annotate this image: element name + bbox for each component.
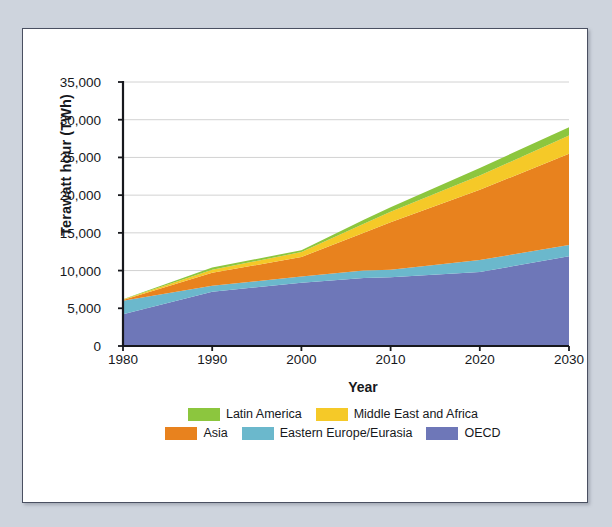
legend-label: Latin America [226, 407, 302, 421]
x-tick-label: 2000 [271, 352, 331, 367]
legend-row: AsiaEastern Europe/EurasiaOECD [133, 426, 533, 440]
x-tick-label: 2020 [450, 352, 510, 367]
y-axis-title: Terawatt hour (TWh) [58, 50, 74, 280]
y-tick-label: 5,000 [31, 301, 101, 316]
legend-label: Middle East and Africa [354, 407, 478, 421]
legend-swatch [316, 408, 348, 421]
legend-row: Latin AmericaMiddle East and Africa [133, 407, 533, 421]
legend-swatch [188, 408, 220, 421]
legend-item-middle-east-and-africa: Middle East and Africa [316, 407, 478, 421]
legend-swatch [165, 427, 197, 440]
legend-label: Eastern Europe/Eurasia [280, 426, 413, 440]
legend-item-latin-america: Latin America [188, 407, 302, 421]
x-axis-title: Year [123, 379, 603, 395]
legend-item-asia: Asia [165, 426, 227, 440]
x-tick-label: 1990 [182, 352, 242, 367]
x-tick-label: 1980 [93, 352, 153, 367]
legend-label: OECD [464, 426, 500, 440]
x-tick-label: 2030 [539, 352, 599, 367]
chart-area: 05,00010,00015,00020,00025,00030,00035,0… [23, 29, 589, 504]
legend-swatch [242, 427, 274, 440]
legend-label: Asia [203, 426, 227, 440]
legend-item-oecd: OECD [426, 426, 500, 440]
chart-legend: Latin AmericaMiddle East and AfricaAsiaE… [133, 407, 533, 445]
chart-figure-frame: 05,00010,00015,00020,00025,00030,00035,0… [22, 28, 588, 503]
legend-swatch [426, 427, 458, 440]
x-tick-label: 2010 [361, 352, 421, 367]
x-axis-tick-labels: 198019902000201020202030 [23, 352, 589, 382]
legend-item-eastern-europe-eurasia: Eastern Europe/Eurasia [242, 426, 413, 440]
